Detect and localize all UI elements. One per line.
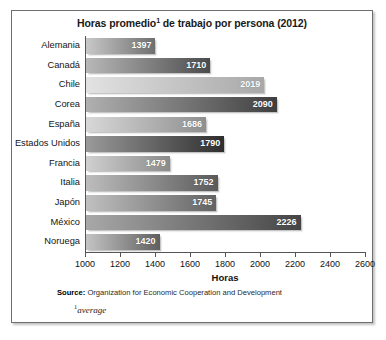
footnote-text: average bbox=[77, 305, 106, 315]
x-tick-mark bbox=[295, 252, 296, 257]
category-label: Francia bbox=[49, 154, 80, 174]
x-tick-mark bbox=[85, 252, 86, 257]
category-label: México bbox=[51, 213, 80, 233]
x-tick-mark bbox=[330, 252, 331, 257]
x-tick-mark bbox=[365, 252, 366, 257]
bar-value-label: 2019 bbox=[240, 77, 260, 93]
bar-row: Canadá1710 bbox=[85, 56, 365, 76]
category-label: Italia bbox=[60, 173, 80, 193]
bar-row: Noruega1420 bbox=[85, 232, 365, 252]
bar-value-label: 1397 bbox=[131, 38, 151, 54]
bar: 2226 bbox=[86, 215, 301, 231]
x-tick-label: 1200 bbox=[110, 259, 130, 269]
bar-value-label: 1745 bbox=[192, 195, 212, 211]
x-tick-label: 2400 bbox=[320, 259, 340, 269]
bar-row: Estados Unidos1790 bbox=[85, 134, 365, 154]
bar: 1686 bbox=[86, 117, 206, 133]
bar-row: Chile2019 bbox=[85, 75, 365, 95]
category-label: Alemania bbox=[41, 36, 80, 56]
bar-value-label: 2090 bbox=[253, 97, 273, 113]
category-label: España bbox=[48, 115, 80, 135]
bar: 2090 bbox=[86, 97, 277, 113]
bar-value-label: 1790 bbox=[200, 136, 220, 152]
bar-row: España1686 bbox=[85, 115, 365, 135]
bar-row: México2226 bbox=[85, 213, 365, 233]
bar-value-label: 1686 bbox=[182, 117, 202, 133]
x-tick-mark bbox=[120, 252, 121, 257]
x-tick-label: 2600 bbox=[355, 259, 375, 269]
bar: 1420 bbox=[86, 234, 160, 250]
x-tick-label: 2000 bbox=[250, 259, 270, 269]
bar: 1479 bbox=[86, 156, 170, 172]
x-axis-title: Horas bbox=[85, 272, 365, 283]
bar-row: Corea2090 bbox=[85, 95, 365, 115]
x-tick-mark bbox=[155, 252, 156, 257]
x-tick-label: 1400 bbox=[145, 259, 165, 269]
x-tick-mark bbox=[190, 252, 191, 257]
bar-value-label: 1752 bbox=[194, 175, 214, 191]
bar-row: Japón1745 bbox=[85, 193, 365, 213]
bar-row: Alemania1397 bbox=[85, 36, 365, 56]
bar: 1397 bbox=[86, 38, 155, 54]
bar-value-label: 1420 bbox=[135, 234, 155, 250]
category-label: Estados Unidos bbox=[15, 134, 80, 154]
bar-value-label: 2226 bbox=[277, 215, 297, 231]
plot-area: 100012001400160018002000220024002600 Ale… bbox=[85, 36, 365, 252]
footnote: 1average bbox=[74, 305, 106, 315]
category-label: Corea bbox=[55, 95, 80, 115]
source-note: Source: Organization for Economic Cooper… bbox=[57, 288, 282, 297]
source-text: Organization for Economic Cooperation an… bbox=[85, 288, 282, 297]
bar: 1710 bbox=[86, 58, 210, 74]
x-tick-label: 1600 bbox=[180, 259, 200, 269]
chart-title-main: Horas promedio bbox=[77, 17, 156, 29]
chart-title: Horas promedio1 de trabajo por persona (… bbox=[12, 17, 372, 29]
x-tick-label: 1000 bbox=[75, 259, 95, 269]
x-tick-mark bbox=[225, 252, 226, 257]
bar: 1790 bbox=[86, 136, 224, 152]
chart-container: Horas promedio1 de trabajo por persona (… bbox=[11, 10, 373, 323]
bar: 2019 bbox=[86, 77, 264, 93]
category-label: Chile bbox=[59, 75, 80, 95]
bar-value-label: 1710 bbox=[186, 58, 206, 74]
category-label: Noruega bbox=[44, 232, 80, 252]
x-tick-label: 1800 bbox=[215, 259, 235, 269]
x-tick-label: 2200 bbox=[285, 259, 305, 269]
category-label: Japón bbox=[55, 193, 80, 213]
category-label: Canadá bbox=[47, 56, 80, 76]
bar: 1752 bbox=[86, 175, 218, 191]
x-tick-mark bbox=[260, 252, 261, 257]
chart-title-rest: de trabajo por persona (2012) bbox=[160, 17, 307, 29]
bar-value-label: 1479 bbox=[146, 156, 166, 172]
source-label: Source: bbox=[57, 288, 85, 297]
bar-row: Francia1479 bbox=[85, 154, 365, 174]
bar-row: Italia1752 bbox=[85, 173, 365, 193]
bar: 1745 bbox=[86, 195, 216, 211]
